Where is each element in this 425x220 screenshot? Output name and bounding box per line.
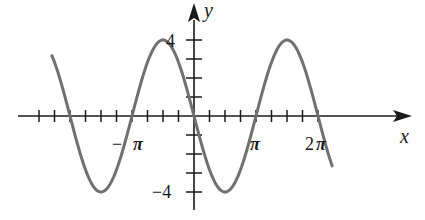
y-tick-label-4: 4 xyxy=(166,31,175,51)
x-tick-label-pi: π xyxy=(250,134,261,154)
chart-figure: y x 4 −4 − π π 2 π xyxy=(0,0,425,220)
sine-graph: y x 4 −4 − π π 2 π xyxy=(0,0,425,220)
y-axis-label: y xyxy=(202,0,213,22)
x-tick-label-neg-pi-sign: − xyxy=(112,134,122,154)
x-tick-label-2pi-coef: 2 xyxy=(305,134,314,154)
y-tick-label-neg4: −4 xyxy=(152,182,171,202)
y-axis-arrow-icon xyxy=(188,3,200,22)
x-tick-label-2pi: π xyxy=(316,134,327,154)
x-axis-label: x xyxy=(399,125,409,147)
x-tick-label-neg-pi: π xyxy=(133,134,144,154)
